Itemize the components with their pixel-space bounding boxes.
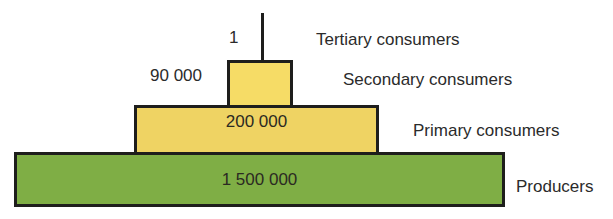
primary-consumers-box: 200 000: [134, 105, 379, 159]
tertiary-label: Tertiary consumers: [316, 30, 460, 50]
tertiary-consumers-bar: [261, 13, 264, 63]
secondary-count: 90 000: [150, 66, 202, 86]
producers-count: 1 500 000: [222, 170, 298, 190]
secondary-consumers-box: [227, 60, 293, 109]
primary-count: 200 000: [226, 112, 287, 132]
primary-label: Primary consumers: [413, 121, 559, 141]
producers-box: 1 500 000: [14, 152, 505, 207]
producers-label: Producers: [516, 177, 593, 197]
secondary-label: Secondary consumers: [343, 70, 512, 90]
tertiary-count: 1: [229, 28, 238, 48]
